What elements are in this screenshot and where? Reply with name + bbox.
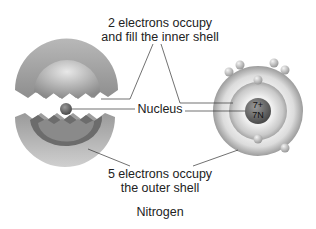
outer-shell-label-line1: 5 electrons occupy xyxy=(90,167,230,181)
nucleus-left xyxy=(60,103,72,115)
electron-inner xyxy=(254,76,263,85)
shell-cutaway-top xyxy=(15,39,118,99)
nucleus-symbol: 7N xyxy=(252,110,264,120)
outer-shell-label-line2: the outer shell xyxy=(90,181,230,195)
electron-outer xyxy=(225,68,234,77)
electron-inner xyxy=(254,135,263,144)
inner-shell-label-line2: and fill the inner shell xyxy=(90,30,230,44)
diagram-title: Nitrogen xyxy=(120,205,200,219)
outer-shell-label: 5 electrons occupy the outer shell xyxy=(90,167,230,195)
electron-outer xyxy=(281,66,290,75)
nucleus-label: Nucleus xyxy=(135,102,185,116)
electron-outer xyxy=(270,59,279,68)
inner-shell-label: 2 electrons occupy and fill the inner sh… xyxy=(90,16,230,44)
nucleus-charge: 7+ xyxy=(253,100,263,110)
electron-outer xyxy=(236,61,245,70)
shell-cutaway-bottom xyxy=(15,113,115,167)
bohr-model: 7+ 7N xyxy=(213,59,303,157)
electron-outer xyxy=(281,144,290,153)
inner-shell-label-line1: 2 electrons occupy xyxy=(90,16,230,30)
